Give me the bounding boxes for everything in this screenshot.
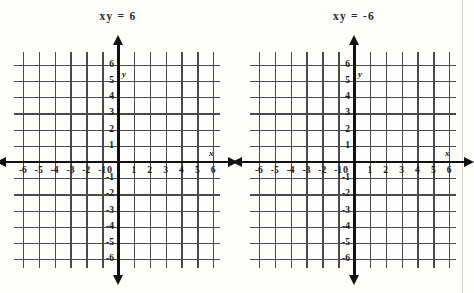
x-tick-label: -5 [268,166,282,176]
y-tick-label: -5 [100,238,114,248]
x-tick-label: 4 [174,166,188,176]
x-tick-label: -2 [315,166,329,176]
y-tick-label: 5 [336,76,350,86]
gridline-vertical [181,52,182,268]
graph-panel-right: xy = -6 654321-1-2-3-4-5-60-6-5-4-3-2-11… [236,0,472,293]
x-axis [3,161,231,163]
gridline-vertical [197,52,198,268]
x-tick-label: -4 [48,166,62,176]
y-tick-label: 3 [100,108,114,118]
x-tick-label: -5 [32,166,46,176]
x-tick-label: -3 [299,166,313,176]
y-tick-label: -4 [336,222,350,232]
y-tick-label: 6 [336,60,350,70]
gridline-vertical [402,52,403,268]
y-axis-up-arrow-icon [113,35,123,45]
x-tick-label: 2 [143,166,157,176]
gridline-vertical [259,52,260,268]
y-axis [353,42,356,278]
coordinate-plane-left: 654321-1-2-3-4-5-60-6-5-4-3-2-1123456yx [14,52,220,268]
y-axis [117,42,120,278]
coordinate-plane-right: 654321-1-2-3-4-5-60-6-5-4-3-2-1123456yx [250,52,456,268]
gridline-vertical [213,52,214,268]
gridline-vertical [291,52,292,268]
y-axis-down-arrow-icon [113,275,123,285]
y-tick-label: -6 [100,254,114,264]
gridline-vertical [150,52,151,268]
x-tick-label: 3 [395,166,409,176]
x-tick-label: 6 [206,166,220,176]
x-tick-label: 2 [379,166,393,176]
y-tick-label: 6 [100,60,114,70]
gridline-vertical [55,52,56,268]
graph-panel-left: xy = 6 654321-1-2-3-4-5-60-6-5-4-3-2-112… [0,0,236,293]
y-tick-label: -2 [100,189,114,199]
x-tick-label: 5 [426,166,440,176]
y-tick-label: 4 [100,92,114,102]
y-axis-down-arrow-icon [349,275,359,285]
gridline-vertical [134,52,135,268]
y-axis-label: y [122,69,126,79]
y-tick-label: 2 [100,125,114,135]
gridline-vertical [275,52,276,268]
panel-left-title: xy = 6 [0,10,236,22]
y-tick-label: -3 [336,206,350,216]
gridline-vertical [449,52,450,268]
gridline-vertical [70,52,71,268]
x-tick-label: -6 [16,166,30,176]
x-tick-label: -1 [331,166,345,176]
gridline-vertical [386,52,387,268]
x-tick-label: -2 [79,166,93,176]
y-tick-label: 1 [100,141,114,151]
x-tick-label: 6 [442,166,456,176]
y-tick-label: -6 [336,254,350,264]
x-tick-label: 1 [127,166,141,176]
y-axis-up-arrow-icon [349,35,359,45]
x-tick-label: 5 [190,166,204,176]
gridline-vertical [166,52,167,268]
gridline-vertical [433,52,434,268]
y-tick-label: 4 [336,92,350,102]
x-tick-label: 1 [363,166,377,176]
x-tick-label: 3 [159,166,173,176]
y-tick-label: -4 [100,222,114,232]
gridline-vertical [417,52,418,268]
gridline-vertical [23,52,24,268]
x-tick-label: 4 [410,166,424,176]
gridline-vertical [370,52,371,268]
x-axis-label: x [445,148,450,158]
x-tick-label: -6 [252,166,266,176]
x-axis [239,161,467,163]
y-tick-label: 3 [336,108,350,118]
y-tick-label: -5 [336,238,350,248]
gridline-vertical [306,52,307,268]
x-axis-label: x [209,148,214,158]
gridline-vertical [39,52,40,268]
x-axis-right-arrow-icon [464,157,474,167]
x-tick-label: -1 [95,166,109,176]
gridline-vertical [86,52,87,268]
y-axis-label: y [358,69,362,79]
x-axis-left-arrow-icon [232,157,242,167]
x-tick-label: -4 [284,166,298,176]
x-tick-label: -3 [63,166,77,176]
x-axis-left-arrow-icon [0,157,6,167]
y-tick-label: -3 [100,206,114,216]
y-tick-label: -2 [336,189,350,199]
gridline-vertical [322,52,323,268]
y-tick-label: 5 [100,76,114,86]
y-tick-label: 2 [336,125,350,135]
panel-right-title: xy = -6 [236,10,472,22]
y-tick-label: 1 [336,141,350,151]
